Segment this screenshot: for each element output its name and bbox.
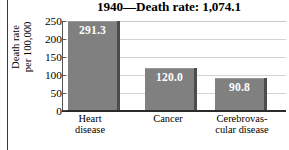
x-axis-label-cancer: Cancer xyxy=(131,113,205,124)
y-tick-label-250: 250 xyxy=(28,16,62,27)
bar-value-cerebrovascular-disease: 90.8 xyxy=(215,81,264,94)
y-axis-line xyxy=(62,21,63,111)
page-column-rule xyxy=(7,0,8,150)
bar-value-heart-disease: 291.3 xyxy=(68,24,117,37)
bar-shadow xyxy=(264,78,267,111)
x-label-line-2: cular disease xyxy=(200,124,284,135)
x-label-line-1: Cerebrovas- xyxy=(200,113,284,124)
y-tick-label-150: 150 xyxy=(28,52,62,63)
y-axis-title-line-1: Death rate xyxy=(10,5,22,89)
y-tick-label-100: 100 xyxy=(28,70,62,81)
y-tick-mark-0 xyxy=(63,110,66,111)
y-tick-mark-200 xyxy=(63,39,66,40)
y-tick-label-200: 200 xyxy=(28,34,62,45)
bar-top-highlight xyxy=(68,21,120,22)
bar-value-cancer: 120.0 xyxy=(145,71,194,84)
x-axis-label-heart-disease: Heart disease xyxy=(53,113,127,136)
chart-figure: 1940—Death rate: 1,074.1 Death rate per … xyxy=(0,0,289,150)
bar-shadow xyxy=(194,68,197,111)
y-tick-label-50: 50 xyxy=(28,88,62,99)
bar-top-highlight xyxy=(145,68,197,69)
bar-shadow xyxy=(117,21,120,111)
x-axis-line xyxy=(62,110,286,112)
chart-title: 1940—Death rate: 1,074.1 xyxy=(52,0,286,15)
plot-area: 291.3 120.0 90.8 xyxy=(63,21,286,111)
bar-cancer: 120.0 xyxy=(145,68,197,111)
x-axis-label-cerebrovascular-disease: Cerebrovas- cular disease xyxy=(200,113,284,136)
bar-heart-disease: 291.3 xyxy=(68,21,120,111)
bar-cerebrovascular-disease: 90.8 xyxy=(215,78,267,111)
y-tick-mark-250 xyxy=(63,21,66,22)
x-label-line-1: Cancer xyxy=(131,113,205,124)
bar-top-highlight xyxy=(215,78,267,79)
x-label-line-1: Heart xyxy=(53,113,127,124)
y-tick-mark-100 xyxy=(63,75,66,76)
x-label-line-2: disease xyxy=(53,124,127,135)
y-tick-mark-150 xyxy=(63,57,66,58)
y-tick-mark-50 xyxy=(63,93,66,94)
